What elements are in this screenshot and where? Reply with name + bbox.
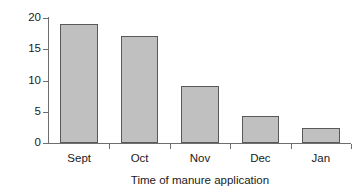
y-axis-tick-labels: 05101520 xyxy=(0,0,41,195)
x-axis-tick-mark xyxy=(291,144,292,149)
x-axis-tick-mark xyxy=(230,144,231,149)
x-axis-tick-label: Dec xyxy=(230,152,290,165)
x-axis-title: Time of manure application xyxy=(49,173,351,187)
y-axis-tick-label: 15 xyxy=(1,43,41,55)
y-axis-tick-mark xyxy=(43,18,48,19)
x-axis-tick-label: Oct xyxy=(109,152,169,165)
x-axis-tick-mark xyxy=(351,144,352,149)
y-axis-tick-label: 20 xyxy=(1,12,41,24)
bar-nov xyxy=(181,86,218,144)
x-axis-tick-label: Jan xyxy=(291,152,351,165)
x-axis-tick-label: Sept xyxy=(49,152,109,165)
y-axis-tick-mark xyxy=(43,112,48,113)
y-axis-tick-mark xyxy=(43,143,48,144)
y-axis-tick-label: 10 xyxy=(1,75,41,87)
x-axis-line xyxy=(48,143,351,144)
y-axis-tick-label: 5 xyxy=(1,106,41,118)
bar-oct xyxy=(121,36,158,143)
bar-dec xyxy=(242,116,279,143)
y-axis-tick-mark xyxy=(43,49,48,50)
plot-area xyxy=(49,18,351,143)
y-axis-tick-label: 0 xyxy=(1,137,41,149)
x-axis-tick-mark xyxy=(170,144,171,149)
x-axis-tick-label: Nov xyxy=(170,152,230,165)
bar-chart-figure: Loss as % of total N applied 05101520 Ti… xyxy=(0,0,363,195)
x-axis-tick-mark xyxy=(109,144,110,149)
y-axis-tick-mark xyxy=(43,81,48,82)
bar-jan xyxy=(302,128,339,143)
bar-sept xyxy=(60,24,97,143)
